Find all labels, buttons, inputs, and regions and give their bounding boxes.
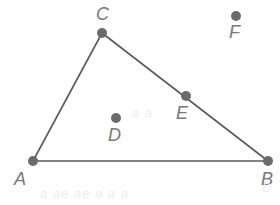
geometry-figure: ABCDEF a ae ae a a aDa a [0,0,280,205]
triangle-segments [33,33,268,161]
ghost-bottom-2: D [262,181,272,194]
segment-AC [33,33,102,161]
ghost-middle: a a [132,106,153,119]
point-dot-a [28,156,38,166]
point-label-e: E [176,104,188,122]
point-dot-e [181,91,191,101]
point-label-a: A [14,170,26,188]
point-label-f: F [229,23,240,41]
point-label-d: D [108,126,121,144]
point-dot-b [263,156,273,166]
point-dot-d [111,113,121,123]
point-dot-f [231,11,241,21]
point-label-c: C [96,5,109,23]
point-dot-c [97,28,107,38]
ghost-bottom-1: a ae ae a a a [40,187,129,200]
